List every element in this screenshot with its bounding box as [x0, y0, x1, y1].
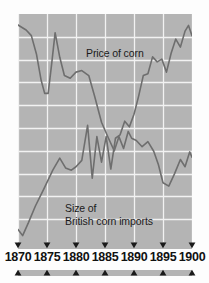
x-tick-label-1880: 1880: [63, 250, 90, 264]
annotation-size-of-british-corn-imports: Size of British corn imports: [65, 202, 153, 227]
annotation-price-of-corn: Price of corn: [86, 47, 144, 60]
x-tick-label-1875: 1875: [34, 250, 61, 264]
plot-area: Price of corn Size of British corn impor…: [18, 14, 192, 242]
x-tick-label-1900: 1900: [179, 250, 206, 264]
corn-price-imports-chart: Price of corn Size of British corn impor…: [0, 0, 209, 283]
x-tick-label-1870: 1870: [5, 250, 32, 264]
x-tick-label-1885: 1885: [92, 250, 119, 264]
x-tick-label-1895: 1895: [150, 250, 177, 264]
x-tick-label-1890: 1890: [121, 250, 148, 264]
x-axis-tick-labels: 1870187518801885189018951900: [0, 250, 209, 266]
